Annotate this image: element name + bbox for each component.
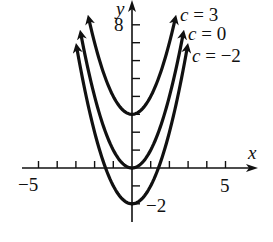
tick-label-y-8: 8 bbox=[114, 14, 124, 35]
parabola-family-chart: x y −5 5 8 −2 c = 3 c = 0 c = −2 bbox=[0, 0, 273, 242]
curve-label-c3: c = 3 bbox=[180, 4, 218, 25]
tick-label-x-neg5: −5 bbox=[18, 174, 38, 195]
curve-label-cneg2: c = −2 bbox=[192, 45, 241, 66]
tick-label-y-neg2: −2 bbox=[146, 195, 166, 216]
x-axis-label: x bbox=[247, 142, 257, 163]
tick-label-x-5: 5 bbox=[220, 175, 230, 196]
curve-label-c0: c = 0 bbox=[188, 23, 226, 44]
